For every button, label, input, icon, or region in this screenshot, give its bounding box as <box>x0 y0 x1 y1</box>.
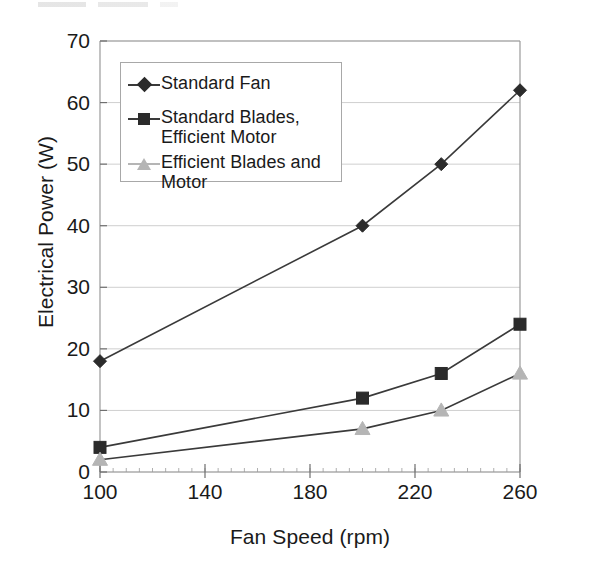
legend-item-label: Standard Blades, Efficient Motor <box>161 107 300 147</box>
data-point-marker <box>94 355 107 368</box>
series-line <box>100 373 520 459</box>
square-marker-icon <box>127 109 161 128</box>
legend-item: Standard Fan <box>121 73 341 94</box>
legend-item-label: Efficient Blades and Motor <box>161 152 321 192</box>
data-point-marker <box>357 392 369 404</box>
chart-figure: 706050403020100 100140180220260 Electric… <box>0 0 603 573</box>
triangle-marker-icon <box>127 154 161 173</box>
legend-item-label: Standard Fan <box>161 73 271 93</box>
chart-legend: Standard Fan Standard Blades, Efficient … <box>120 62 342 182</box>
series-line <box>100 324 520 447</box>
data-point-marker <box>514 318 526 330</box>
data-point-marker <box>435 367 447 379</box>
data-point-marker <box>513 366 528 379</box>
data-point-marker <box>434 403 449 416</box>
diamond-marker-icon <box>127 75 161 94</box>
legend-item: Efficient Blades and Motor <box>121 152 341 192</box>
legend-item: Standard Blades, Efficient Motor <box>121 107 341 147</box>
